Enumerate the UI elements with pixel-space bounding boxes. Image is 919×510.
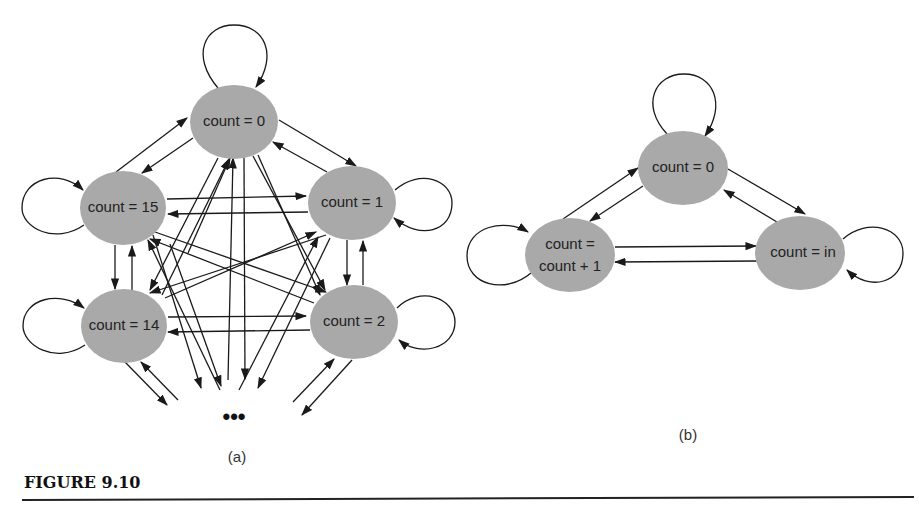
node-label-count-14: count = 14 xyxy=(89,316,159,333)
edge-load-inc xyxy=(615,261,757,262)
edge-n0-n2b xyxy=(258,155,320,295)
edge-load-zero xyxy=(724,190,777,222)
caption-rule xyxy=(22,497,914,500)
edge-n14-ellipsis xyxy=(125,362,167,405)
edge-m-n0 xyxy=(188,158,230,253)
edge-ellipsis-n14 xyxy=(141,362,178,400)
edge-inc-load xyxy=(615,246,756,247)
self-loop-n1 xyxy=(394,178,452,230)
edge-n0-ellipsis xyxy=(244,158,245,379)
self-loop-zero xyxy=(653,74,716,136)
edge-n0-n15 xyxy=(142,138,193,173)
node-label-count-2: count = 2 xyxy=(323,312,385,329)
node-label-count-1: count = 1 xyxy=(321,193,383,210)
node-label-increment-line2: count + 1 xyxy=(539,257,601,274)
edge-n2-ellipsis xyxy=(302,360,352,415)
node-label-count-in: count = in xyxy=(770,243,835,260)
subfigure-label-a: (a) xyxy=(228,448,246,465)
self-loop-n14 xyxy=(23,298,85,353)
edge-n15-n0 xyxy=(116,118,187,172)
self-loop-n2 xyxy=(397,296,455,349)
figure-canvas: count = 0 count = 15 count = 1 count = 1… xyxy=(0,0,919,510)
edge-n2-n14 xyxy=(168,330,310,332)
edge-zero-load xyxy=(728,169,805,214)
self-loop-load xyxy=(843,227,903,282)
diagram-b: count = 0 count = count + 1 count = in (… xyxy=(467,74,903,443)
edge-n1-n0 xyxy=(273,142,327,172)
node-label-increment-line1: count = xyxy=(545,235,595,252)
node-label-count-0-b: count = 0 xyxy=(652,158,714,175)
node-count-increment xyxy=(525,218,615,292)
node-label-count-0: count = 0 xyxy=(203,112,265,129)
subfigure-label-b: (b) xyxy=(679,426,697,443)
edge-zero-inc xyxy=(590,186,643,221)
node-label-count-15: count = 15 xyxy=(88,198,158,215)
self-loop-n0 xyxy=(203,25,267,88)
edge-ellipsis-n2 xyxy=(293,359,334,402)
edge-n15-n1 xyxy=(167,196,306,199)
self-loop-n15 xyxy=(22,178,84,234)
figure-caption: FIGURE 9.10 xyxy=(24,473,141,492)
edge-inc-zero xyxy=(563,168,638,219)
edge-n0-n1 xyxy=(279,120,356,166)
ellipsis-more-states: ••• xyxy=(222,404,245,429)
diagram-a: count = 0 count = 15 count = 1 count = 1… xyxy=(22,25,455,465)
edge-n14-n2 xyxy=(168,316,306,317)
self-loop-inc xyxy=(467,225,531,285)
